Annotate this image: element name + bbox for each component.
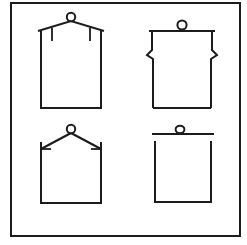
panel-bottom-right-bar-knob-icon bbox=[176, 126, 185, 133]
panel-bottom-left-apex-knob-icon bbox=[67, 125, 75, 133]
panel-top-left-apex-knob-icon bbox=[67, 13, 75, 21]
figure-sheet bbox=[0, 0, 247, 245]
panel-top-right-rail-knob-icon bbox=[177, 20, 186, 29]
line-drawing-canvas bbox=[0, 0, 247, 245]
